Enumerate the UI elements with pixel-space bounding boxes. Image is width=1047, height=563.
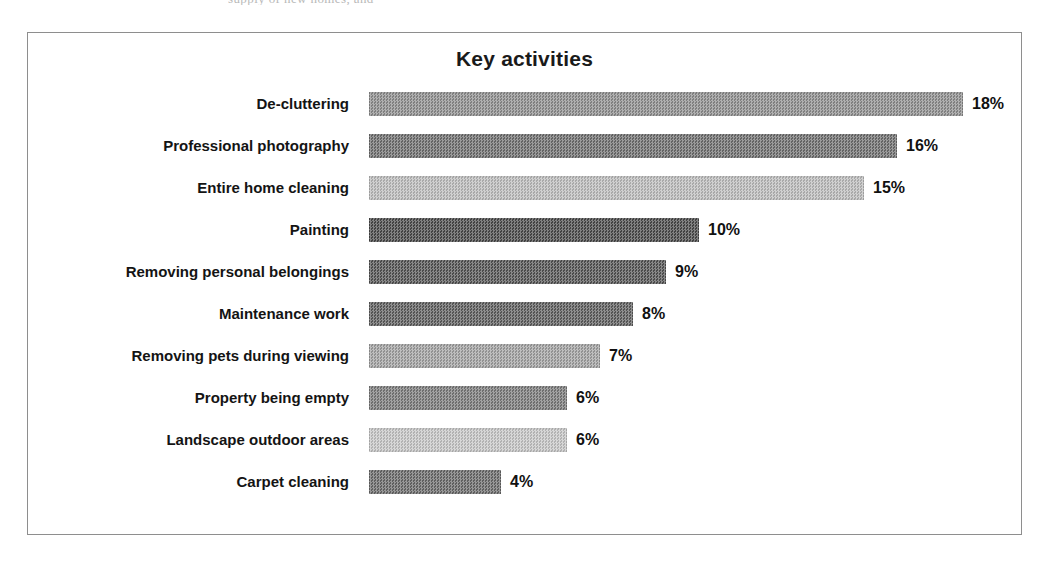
- bar-and-value: 6%: [369, 426, 599, 453]
- bar-and-value: 10%: [369, 216, 740, 243]
- bar-category-label: Carpet cleaning: [28, 468, 359, 495]
- bar-category-label: Removing pets during viewing: [28, 342, 359, 369]
- bar-and-value: 6%: [369, 384, 599, 411]
- bar-and-value: 9%: [369, 258, 698, 285]
- bar-value-label: 9%: [675, 260, 698, 284]
- bar-and-value: 16%: [369, 132, 938, 159]
- bar-value-label: 16%: [906, 134, 938, 158]
- bar-value-label: 8%: [642, 302, 665, 326]
- bar-chart-plot-area: De-cluttering18%Professional photography…: [28, 90, 1021, 526]
- bar: [369, 470, 501, 494]
- bar-value-label: 6%: [576, 428, 599, 452]
- bar-category-label: De-cluttering: [28, 90, 359, 117]
- bar-value-label: 7%: [609, 344, 632, 368]
- bar-category-label: Landscape outdoor areas: [28, 426, 359, 453]
- bar-row: De-cluttering18%: [28, 90, 1021, 117]
- bar: [369, 92, 963, 116]
- bar-category-label: Entire home cleaning: [28, 174, 359, 201]
- bar-value-label: 18%: [972, 92, 1004, 116]
- bar-and-value: 8%: [369, 300, 665, 327]
- bar-and-value: 15%: [369, 174, 905, 201]
- scanned-text-fragment: supply of new homes, and: [228, 0, 648, 5]
- bar: [369, 260, 666, 284]
- bar-and-value: 7%: [369, 342, 632, 369]
- bar-category-label: Professional photography: [28, 132, 359, 159]
- bar: [369, 428, 567, 452]
- bar-value-label: 15%: [873, 176, 905, 200]
- bar-row: Maintenance work8%: [28, 300, 1021, 327]
- bar: [369, 386, 567, 410]
- bar-and-value: 4%: [369, 468, 533, 495]
- bar: [369, 176, 864, 200]
- bar-row: Painting10%: [28, 216, 1021, 243]
- bar: [369, 302, 633, 326]
- bar: [369, 134, 897, 158]
- bar-and-value: 18%: [369, 90, 1004, 117]
- bar-row: Property being empty6%: [28, 384, 1021, 411]
- bar-category-label: Painting: [28, 216, 359, 243]
- bar-row: Carpet cleaning4%: [28, 468, 1021, 495]
- bar-category-label: Property being empty: [28, 384, 359, 411]
- bar: [369, 344, 600, 368]
- bar-row: Entire home cleaning15%: [28, 174, 1021, 201]
- bar: [369, 218, 699, 242]
- bar-category-label: Removing personal belongings: [28, 258, 359, 285]
- bar-category-label: Maintenance work: [28, 300, 359, 327]
- chart-container: Key activities De-cluttering18%Professio…: [27, 32, 1022, 535]
- chart-title: Key activities: [28, 47, 1021, 71]
- bar-row: Removing pets during viewing7%: [28, 342, 1021, 369]
- bar-value-label: 4%: [510, 470, 533, 494]
- bar-row: Removing personal belongings9%: [28, 258, 1021, 285]
- bar-value-label: 6%: [576, 386, 599, 410]
- bar-row: Professional photography16%: [28, 132, 1021, 159]
- bar-value-label: 10%: [708, 218, 740, 242]
- bar-row: Landscape outdoor areas6%: [28, 426, 1021, 453]
